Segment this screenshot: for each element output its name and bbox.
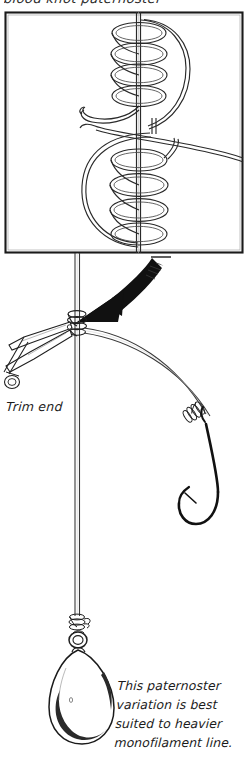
teardrop-sinker: [49, 648, 114, 745]
caption-line-3: suited to heavier: [115, 714, 252, 733]
sinker-knot: [69, 614, 90, 630]
main-line-lower: [75, 253, 80, 616]
lower-coil-wraps: [110, 138, 179, 245]
dropper-line: [84, 328, 210, 416]
pointer-arrow: [77, 256, 172, 322]
caption-line-1: This paternoster: [117, 676, 252, 695]
knot-illustration: [0, 0, 252, 759]
standing-line: [137, 12, 141, 253]
caption-line-2: variation is best: [116, 695, 252, 714]
trim-end-label: Trim end: [5, 399, 63, 414]
caption-line-4: monofilament line.: [114, 733, 251, 752]
scissors: [4, 322, 72, 389]
diagram-canvas: blood knot paternoster: [0, 0, 252, 759]
caption-text: This paternoster variation is best suite…: [114, 676, 252, 752]
sinker-ring: [69, 631, 87, 648]
dropper-loop-tag: [80, 118, 243, 162]
upper-coil-wraps: [80, 20, 190, 130]
hook: [179, 407, 218, 524]
